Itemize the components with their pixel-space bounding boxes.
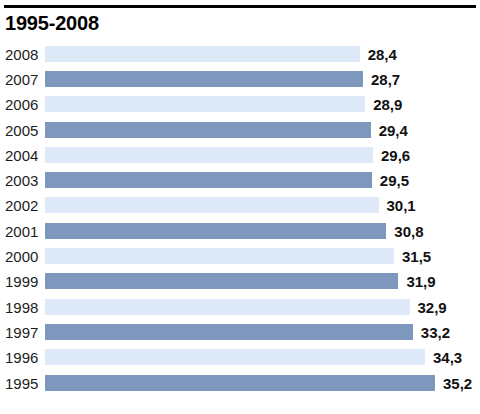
row-year-label: 2005 [5, 121, 38, 138]
bar-value-label: 28,7 [371, 70, 400, 87]
row-year-label: 1996 [5, 349, 38, 366]
bar-value-label: 30,8 [394, 222, 423, 239]
bar-row: 200828,4 [0, 41, 480, 66]
bar-track: 28,9 [45, 96, 480, 112]
row-year-label: 2000 [5, 248, 38, 265]
bar-value-label: 30,1 [387, 197, 416, 214]
bar-track: 31,9 [45, 273, 480, 289]
bar [45, 375, 435, 391]
bar-row: 199931,9 [0, 269, 480, 294]
row-year-label: 1997 [5, 323, 38, 340]
bar-row: 199634,3 [0, 345, 480, 370]
bar-chart-plot-area: 200828,4200728,7200628,9200529,4200429,6… [0, 41, 480, 407]
bar [45, 122, 371, 138]
bar-track: 30,1 [45, 197, 480, 213]
bar [45, 223, 386, 239]
bar-track: 29,4 [45, 122, 480, 138]
bar-value-label: 29,5 [380, 172, 409, 189]
bar [45, 147, 373, 163]
row-year-label: 2008 [5, 45, 38, 62]
bar-row: 200130,8 [0, 218, 480, 243]
bar-row: 200529,4 [0, 117, 480, 142]
bar-value-label: 31,5 [402, 248, 431, 265]
bar-track: 28,4 [45, 46, 480, 62]
bar-track: 35,2 [45, 375, 480, 391]
bar-value-label: 35,2 [443, 374, 472, 391]
row-year-label: 1995 [5, 374, 38, 391]
row-year-label: 2004 [5, 146, 38, 163]
bar-row: 199535,2 [0, 370, 480, 395]
row-year-label: 2007 [5, 70, 38, 87]
bar [45, 324, 413, 340]
bar [45, 71, 363, 87]
bar [45, 299, 410, 315]
bar-row: 200728,7 [0, 66, 480, 91]
bar-value-label: 32,9 [418, 298, 447, 315]
chart-page: 1995-2008 200828,4200728,7200628,9200529… [0, 0, 480, 414]
bar-row: 200329,5 [0, 167, 480, 192]
bar-row: 200230,1 [0, 193, 480, 218]
bar-row: 200031,5 [0, 243, 480, 268]
bar-track: 28,7 [45, 71, 480, 87]
bar-track: 32,9 [45, 299, 480, 315]
bar-track: 30,8 [45, 223, 480, 239]
bar-value-label: 28,9 [373, 96, 402, 113]
row-year-label: 2001 [5, 222, 38, 239]
bar-track: 34,3 [45, 349, 480, 365]
bar [45, 172, 372, 188]
bar [45, 197, 379, 213]
bar-value-label: 29,6 [381, 146, 410, 163]
bar-value-label: 34,3 [433, 349, 462, 366]
bar-track: 29,5 [45, 172, 480, 188]
row-year-label: 2006 [5, 96, 38, 113]
bar [45, 46, 360, 62]
bar-row: 199832,9 [0, 294, 480, 319]
bar-row: 200628,9 [0, 92, 480, 117]
bar [45, 248, 394, 264]
bar-value-label: 33,2 [421, 323, 450, 340]
header-rule [4, 5, 476, 8]
bar-row: 200429,6 [0, 142, 480, 167]
bar-value-label: 29,4 [379, 121, 408, 138]
bar-value-label: 28,4 [368, 45, 397, 62]
row-year-label: 2002 [5, 197, 38, 214]
bar [45, 96, 365, 112]
row-year-label: 2003 [5, 172, 38, 189]
bar-track: 31,5 [45, 248, 480, 264]
row-year-label: 1998 [5, 298, 38, 315]
bar [45, 349, 425, 365]
bar-value-label: 31,9 [406, 273, 435, 290]
bar [45, 273, 398, 289]
bar-track: 29,6 [45, 147, 480, 163]
page-title: 1995-2008 [5, 11, 99, 35]
bar-row: 199733,2 [0, 319, 480, 344]
bar-track: 33,2 [45, 324, 480, 340]
row-year-label: 1999 [5, 273, 38, 290]
